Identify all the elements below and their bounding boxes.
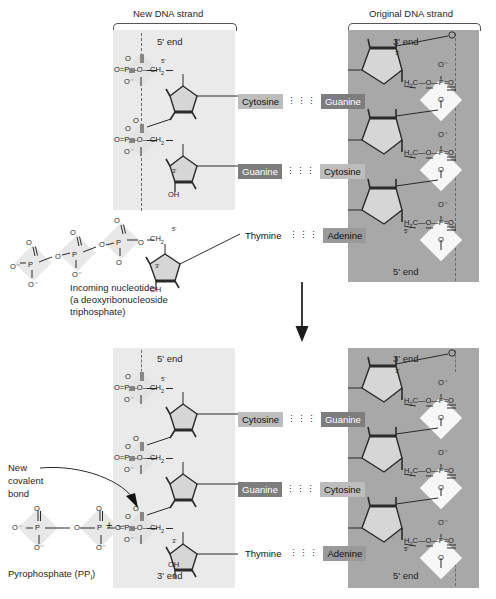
top-bridge-oxygen: O (133, 116, 139, 125)
incoming-pb-oxygen-top: O (70, 228, 76, 237)
top-p2-oxygen-bottom: O⁻ (124, 147, 134, 156)
bottom-orig-p3-oxygen-top: O⁻ (438, 518, 448, 527)
bottom-bridge-oxygen-1: O (133, 434, 139, 443)
top-orig-p3-oxygen-bottom: O (438, 235, 444, 244)
top-p1-formula: O=P—O—CH2 (114, 65, 164, 76)
base-cytosine: Cytosine (238, 94, 283, 109)
pyrophosphate-caption: Pyrophosphate (PPi) (8, 568, 95, 584)
top-p1-oxygen-bottom: O⁻ (124, 77, 134, 86)
top-base-pair-1: Cytosine ⋮⋮⋮ Guanine (238, 94, 365, 109)
bottom-base-pair-1: Cytosine ⋮⋮⋮ Guanine (238, 412, 365, 427)
base-thymine: Thymine (241, 546, 285, 561)
top-p2-formula: O=P—O—CH2 (114, 135, 164, 146)
incoming-bridge-oxygen: O (138, 238, 144, 247)
bottom-orig-p2-oxygen-bottom: O (438, 483, 444, 492)
bottom-sugar3-3prime-mark: 3ʹ (172, 538, 176, 544)
hydrogen-bond-icon: ⋮⋮⋮ (286, 166, 316, 177)
hydrogen-bond-icon: ⋮⋮⋮ (287, 414, 317, 425)
incoming-pc-oxygen-top: O (114, 216, 120, 225)
top-orig-p2-oxygen-top: O⁻ (438, 130, 448, 139)
bottom-p1-oxygen-top: O (125, 372, 131, 381)
incoming-pa-oxygen-bottom: O⁻ (28, 280, 38, 289)
ppi-p2-oxygen-right: O⁻ (115, 523, 125, 532)
top-orig-p1-oxygen-top: O⁻ (438, 60, 448, 69)
bottom-base-pair-2: Guanine ⋮⋮⋮ Cytosine (238, 482, 365, 497)
top-orig-p1-formula: H2C—O—P=O (404, 78, 454, 89)
incoming-caption-line2: (a deoxyribonucleoside (70, 294, 168, 307)
hydrogen-bond-icon: ⋮⋮⋮ (286, 484, 316, 495)
incoming-pc-label: P (116, 238, 121, 247)
base-cytosine: Cytosine (320, 482, 365, 497)
ppi-p2-oxygen-left: O (74, 523, 80, 532)
bottom-orig-p1-formula: H2C—O—P=O (404, 396, 454, 407)
incoming-5prime-mark: 5ʹ (172, 226, 176, 232)
top-orig-p2-oxygen-bottom: O (438, 165, 444, 174)
top-sugar1-5prime-mark: 5ʹ (161, 58, 165, 64)
incoming-pa-label: P (28, 260, 33, 269)
process-arrow-icon (290, 282, 314, 344)
ppi-p1-oxygen-top: O (34, 504, 40, 513)
top-new-strand-chemistry (113, 30, 238, 212)
top-sugar2-3prime-mark: 3ʹ (172, 168, 176, 174)
bottom-sugar1-5prime-mark: 5ʹ (161, 376, 165, 382)
bottom-p1-oxygen-bottom: O⁻ (124, 395, 134, 404)
hydrogen-bond-icon: ⋮⋮⋮ (287, 96, 317, 107)
incoming-pb-oxygen-bottom: O⁻ (72, 270, 82, 279)
bottom-base-pair-3: Thymine ⋮⋮⋮ Adenine (241, 546, 366, 561)
ppi-p2-oxygen-top: O (96, 504, 102, 513)
incoming-caption-line1: Incoming nucleotide (70, 282, 155, 295)
bottom-p1-formula: O=P—O—CH2 (114, 383, 164, 394)
bottom-orig-sugar1-3prime: 3ʹ (395, 368, 399, 374)
base-guanine: Guanine (238, 482, 282, 497)
top-base-pair-2: Guanine ⋮⋮⋮ Cytosine (238, 164, 365, 179)
dna-replication-diagram: New DNA strand Original DNA strand 5ʹ en… (0, 0, 496, 599)
bottom-orig-p3-formula: H2C—O—P=O (404, 536, 454, 547)
incoming-methylene: CH2 (150, 234, 164, 245)
bottom-orig-p1-oxygen-top: O⁻ (438, 378, 448, 387)
incoming-nucleotide-chemistry (8, 218, 248, 290)
plus-sign: + (106, 519, 112, 531)
ppi-p2-label: P (97, 523, 102, 532)
hydrogen-bond-icon: ⋮⋮⋮ (289, 230, 319, 241)
top-p1-oxygen-top: O (125, 54, 131, 63)
base-adenine: Adenine (323, 546, 366, 561)
original-strand-title: Original DNA strand (369, 8, 453, 19)
new-strand-title: New DNA strand (133, 8, 203, 19)
base-adenine: Adenine (323, 228, 366, 243)
bottom-new-hydroxyl: OH (168, 560, 179, 569)
new-covalent-bond-line1: New (8, 462, 27, 475)
top-new-hydroxyl: OH (168, 190, 179, 199)
incoming-pc-oxygen-left: O (99, 240, 105, 249)
incoming-pb-label: P (72, 250, 77, 259)
base-guanine: Guanine (238, 164, 282, 179)
bottom-orig-p2-oxygen-top: O⁻ (438, 448, 448, 457)
top-base-pair-3: Thymine ⋮⋮⋮ Adenine (241, 228, 366, 243)
top-orig-p2-formula: H2C—O—P=O (404, 148, 454, 159)
base-cytosine: Cytosine (238, 412, 283, 427)
base-cytosine: Cytosine (320, 164, 365, 179)
top-p2-oxygen-top: O (125, 124, 131, 133)
bottom-p2-oxygen-top: O (125, 442, 131, 451)
hydrogen-bond-icon: ⋮⋮⋮ (289, 548, 319, 559)
top-orig-p3-oxygen-top: O⁻ (438, 200, 448, 209)
bottom-orig-5prime-mark: 5ʹ (404, 546, 408, 552)
ppi-p1-oxygen-bottom: O⁻ (34, 543, 44, 552)
incoming-3prime-mark: 3ʹ (155, 263, 159, 269)
bottom-orig-p3-oxygen-bottom: O (438, 553, 444, 562)
ppi-p2-oxygen-bottom: O⁻ (96, 543, 106, 552)
base-guanine: Guanine (321, 94, 365, 109)
base-guanine: Guanine (321, 412, 365, 427)
top-orig-sugar1-3prime: 3ʹ (395, 50, 399, 56)
incoming-pc-oxygen-bottom: O (116, 258, 122, 267)
incoming-caption-line3: triphosphate) (70, 306, 125, 319)
bottom-orig-p2-formula: H2C—O—P=O (404, 466, 454, 477)
incoming-pb-oxygen-left: O (55, 252, 61, 261)
incoming-pa-oxygen-top: O (26, 238, 32, 247)
top-orig-p1-oxygen-bottom: O (438, 95, 444, 104)
incoming-pa-oxygen-left: O⁻ (10, 262, 20, 271)
ppi-p1-label: P (35, 523, 40, 532)
top-orig-p3-formula: H2C—O—P=O (404, 218, 454, 229)
ppi-p1-oxygen-left: O⁻ (12, 523, 22, 532)
bottom-orig-p1-oxygen-bottom: O (438, 413, 444, 422)
top-orig-5prime-mark: 5ʹ (404, 228, 408, 234)
